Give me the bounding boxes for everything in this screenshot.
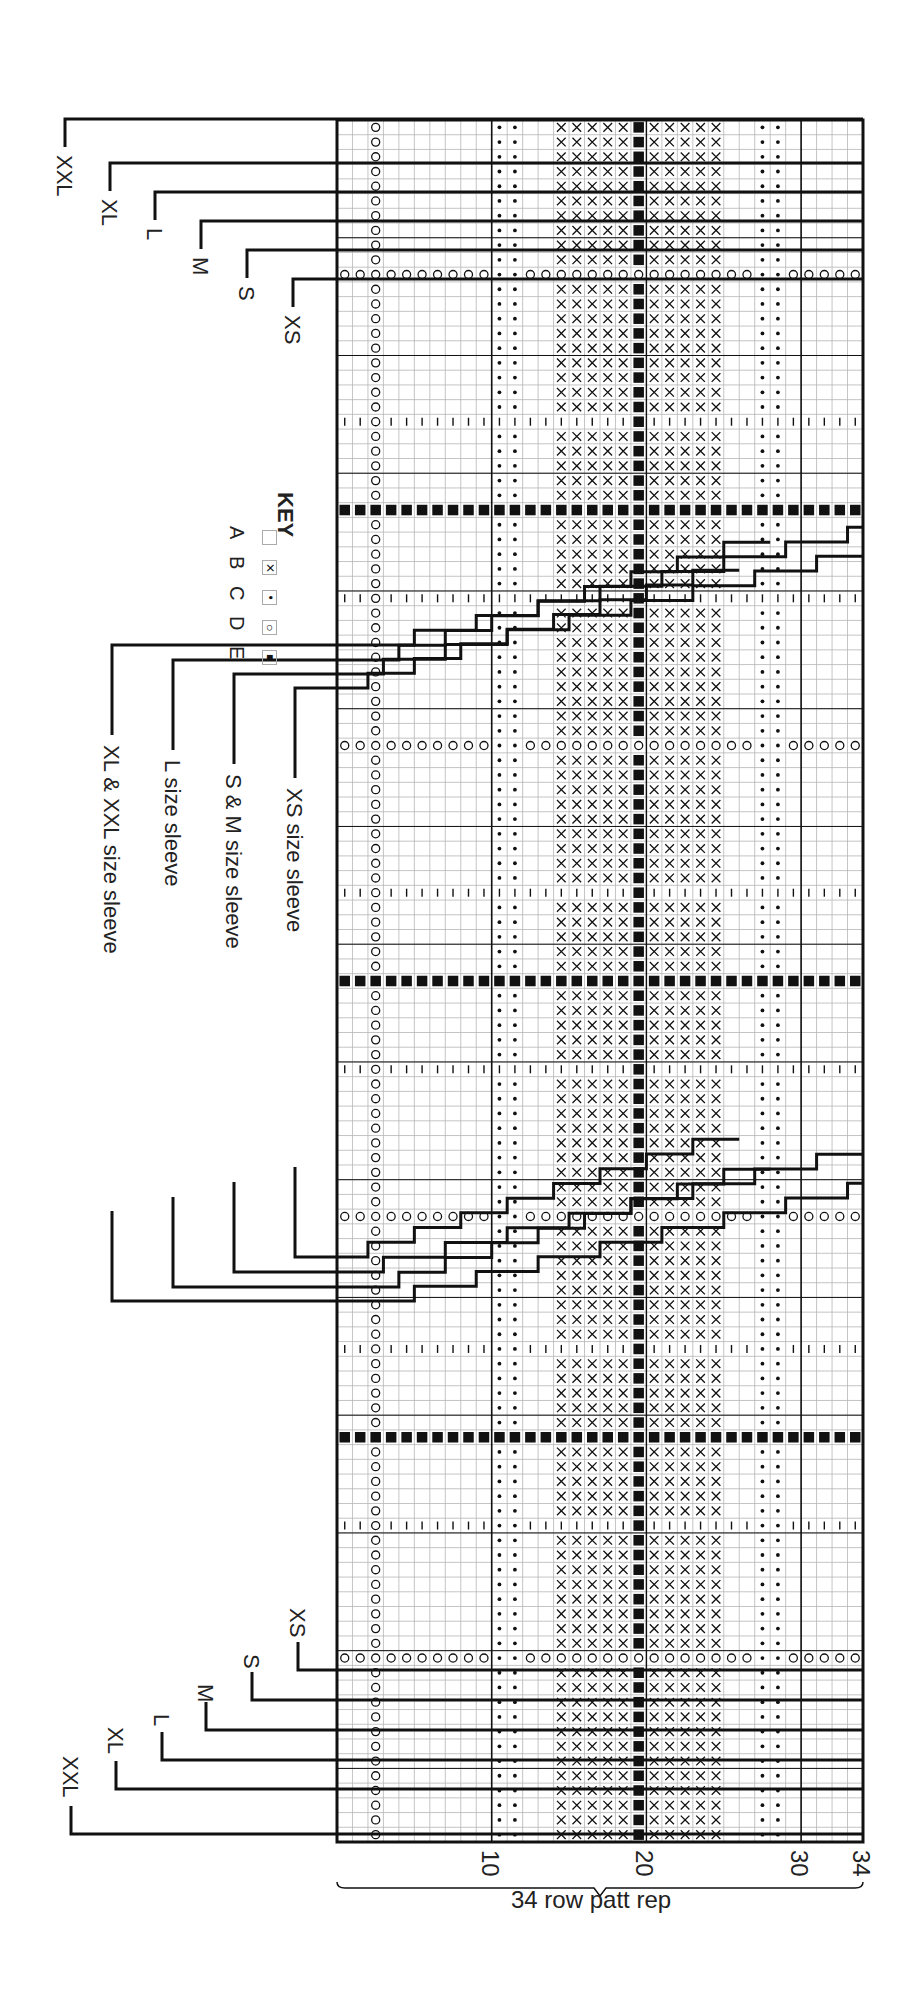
cross-symbol xyxy=(619,1227,628,1236)
circle-symbol xyxy=(434,741,442,749)
dot-symbol xyxy=(513,950,517,954)
cross-symbol xyxy=(588,1477,597,1486)
cross-symbol xyxy=(619,1801,628,1810)
circle-symbol xyxy=(372,300,380,308)
circle-symbol xyxy=(372,447,380,455)
cross-symbol xyxy=(588,1742,597,1751)
dot-symbol xyxy=(776,1612,780,1616)
cross-symbol xyxy=(603,167,612,176)
dot-symbol xyxy=(776,1244,780,1248)
filled-square-symbol xyxy=(788,505,799,516)
dot-symbol xyxy=(498,273,502,277)
cross-symbol xyxy=(619,241,628,250)
cross-symbol xyxy=(588,1021,597,1030)
filled-square-symbol xyxy=(633,225,644,236)
sleeve-label: S & M size sleeve xyxy=(220,774,246,949)
cross-symbol xyxy=(665,1300,674,1309)
cross-symbol xyxy=(603,991,612,1000)
filled-square-symbol xyxy=(633,1815,644,1826)
dot-symbol xyxy=(513,1229,517,1233)
cross-symbol xyxy=(572,933,581,942)
cross-symbol xyxy=(681,1315,690,1324)
cross-symbol xyxy=(557,1418,566,1427)
cross-symbol xyxy=(588,653,597,662)
dot-symbol xyxy=(761,361,765,365)
circle-symbol xyxy=(805,1654,813,1662)
cross-symbol xyxy=(665,138,674,147)
cross-symbol xyxy=(665,1639,674,1648)
cross-symbol xyxy=(665,918,674,927)
cross-symbol xyxy=(619,1389,628,1398)
cross-symbol xyxy=(572,1374,581,1383)
cross-symbol xyxy=(665,476,674,485)
filled-square-symbol xyxy=(633,1005,644,1016)
cross-symbol xyxy=(650,1462,659,1471)
filled-square-symbol xyxy=(633,549,644,560)
cross-symbol xyxy=(696,1492,705,1501)
circle-symbol xyxy=(372,212,380,220)
filled-square-symbol xyxy=(463,1432,474,1443)
cross-symbol xyxy=(712,829,721,838)
cross-symbol xyxy=(681,1403,690,1412)
cross-symbol xyxy=(712,211,721,220)
dot-symbol xyxy=(498,125,502,129)
cross-symbol xyxy=(696,447,705,456)
cross-symbol xyxy=(588,314,597,323)
circle-symbol xyxy=(526,1654,534,1662)
cross-symbol xyxy=(557,565,566,574)
cross-symbol xyxy=(650,815,659,824)
cross-symbol xyxy=(665,991,674,1000)
cross-symbol xyxy=(681,447,690,456)
filled-square-symbol xyxy=(633,917,644,928)
cross-symbol xyxy=(588,1713,597,1722)
dot-symbol xyxy=(761,788,765,792)
cross-symbol xyxy=(712,152,721,161)
circle-symbol xyxy=(666,741,674,749)
cross-symbol xyxy=(619,1551,628,1560)
cross-symbol xyxy=(665,844,674,853)
dot-symbol xyxy=(761,199,765,203)
cross-symbol xyxy=(712,138,721,147)
dot-symbol xyxy=(498,1480,502,1484)
cross-symbol xyxy=(557,933,566,942)
dot-symbol xyxy=(761,935,765,939)
dot-symbol xyxy=(513,876,517,880)
dot-symbol xyxy=(761,802,765,806)
cross-symbol xyxy=(712,123,721,132)
cross-symbol xyxy=(603,123,612,132)
cross-symbol xyxy=(696,1462,705,1471)
cross-symbol xyxy=(665,1713,674,1722)
cross-symbol xyxy=(557,697,566,706)
dot-symbol xyxy=(776,538,780,542)
dot-symbol xyxy=(498,493,502,497)
cross-symbol xyxy=(681,211,690,220)
cross-symbol xyxy=(696,1580,705,1589)
circle-symbol xyxy=(372,1477,380,1485)
cross-symbol xyxy=(681,1168,690,1177)
circle-symbol xyxy=(372,123,380,131)
cross-symbol xyxy=(603,1477,612,1486)
size-leader-line xyxy=(155,192,863,220)
dot-symbol xyxy=(498,861,502,865)
cross-symbol xyxy=(557,300,566,309)
cross-symbol xyxy=(572,1271,581,1280)
filled-square-symbol xyxy=(355,1432,366,1443)
cross-symbol xyxy=(588,947,597,956)
dot-symbol xyxy=(761,346,765,350)
cross-symbol xyxy=(557,123,566,132)
cross-symbol xyxy=(572,1536,581,1545)
cross-symbol xyxy=(572,712,581,721)
circle-symbol xyxy=(372,1330,380,1338)
cross-symbol xyxy=(665,1448,674,1457)
filled-square-symbol xyxy=(633,490,644,501)
circle-symbol xyxy=(712,741,720,749)
cross-symbol xyxy=(665,1256,674,1265)
cross-symbol xyxy=(696,874,705,883)
circle-symbol xyxy=(372,594,380,602)
circle-symbol xyxy=(372,962,380,970)
cross-symbol xyxy=(557,359,566,368)
cross-symbol xyxy=(572,668,581,677)
circle-symbol xyxy=(372,1315,380,1323)
circle-symbol xyxy=(372,1389,380,1397)
circle-symbol xyxy=(789,1212,797,1220)
